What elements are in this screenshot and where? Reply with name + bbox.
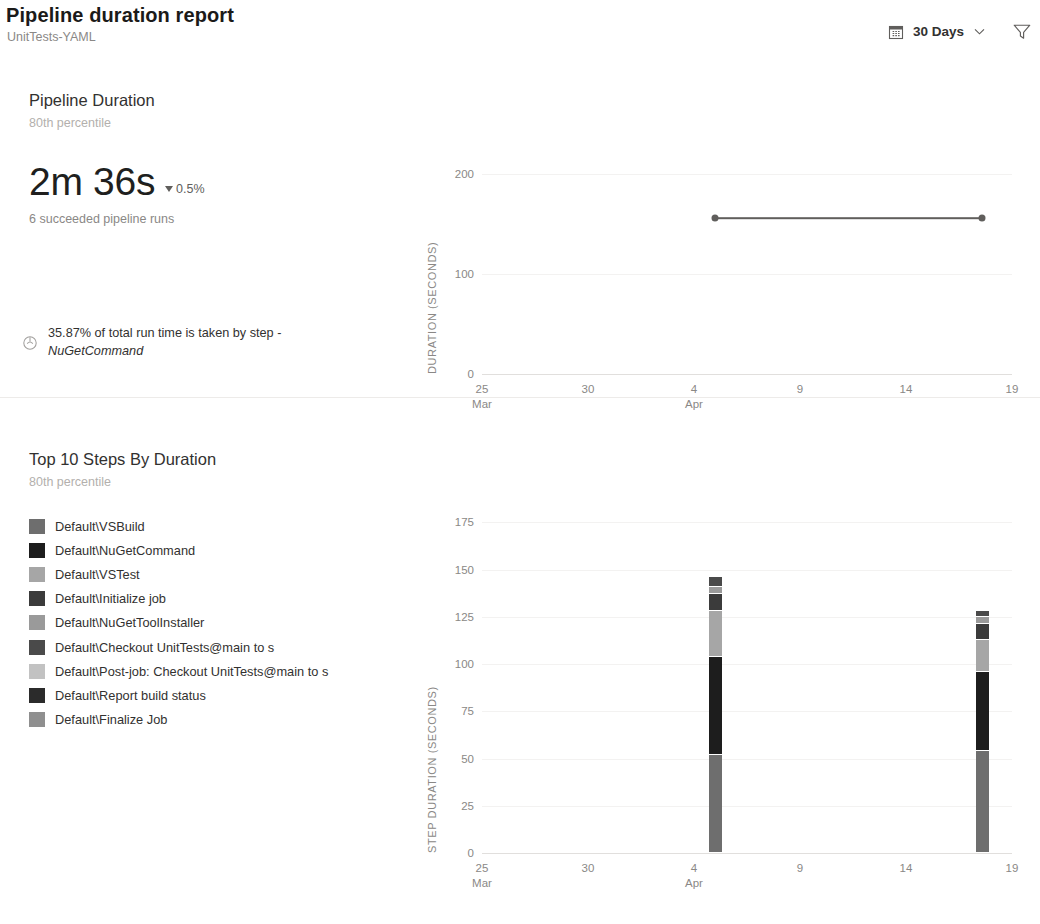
insight-sentence: 35.87% of total run time is taken by ste… [48, 326, 281, 340]
top-steps-title: Top 10 Steps By Duration [29, 450, 429, 469]
insight-text: 35.87% of total run time is taken by ste… [48, 324, 372, 361]
pipeline-duration-section: Pipeline Duration 80th percentile 2m 36s… [0, 62, 1040, 397]
x-axis-tick-label: 19 [982, 383, 1040, 395]
legend-item-label: Default\Report build status [55, 688, 206, 703]
y-axis-tick-label: 100 [436, 268, 474, 280]
kpi-value-row: 2m 36s 0.5% [29, 162, 399, 201]
pipeline-name-subtitle: UnitTests-YAML [7, 30, 96, 44]
bar-segment[interactable] [709, 594, 722, 611]
bar-segment[interactable] [976, 624, 989, 639]
legend-item[interactable]: Default\NuGetCommand [29, 538, 409, 562]
bar-segment[interactable] [709, 657, 722, 755]
pipeline-duration-report-page: Pipeline duration report UnitTests-YAML … [0, 0, 1040, 924]
top-steps-heading: Top 10 Steps By Duration 80th percentile [29, 450, 429, 489]
y-axis-label: STEP DURATION (SECONDS) [426, 686, 438, 853]
x-tick-day: 14 [876, 383, 936, 395]
bar-segment[interactable] [976, 672, 989, 751]
bar-segment[interactable] [976, 751, 989, 853]
pipeline-duration-kpi: Pipeline Duration 80th percentile 2m 36s… [29, 91, 399, 226]
x-tick-day: 9 [770, 862, 830, 874]
legend-color-swatch [29, 519, 45, 534]
x-tick-month: Mar [452, 877, 512, 889]
legend-color-swatch [29, 543, 45, 558]
gridline [482, 274, 1012, 275]
legend-item[interactable]: Default\Post-job: Checkout UnitTests@mai… [29, 659, 409, 683]
legend-item-label: Default\Initialize job [55, 591, 166, 606]
legend-color-swatch [29, 664, 45, 679]
legend-color-swatch [29, 615, 45, 630]
legend-color-swatch [29, 567, 45, 582]
legend-item-label: Default\NuGetCommand [55, 543, 195, 558]
y-axis-tick-label: 75 [436, 705, 474, 717]
bar-segment[interactable] [709, 577, 722, 586]
y-axis-tick-label: 200 [436, 168, 474, 180]
header-actions: 30 Days [888, 22, 1032, 41]
trend-down-icon [165, 186, 173, 192]
page-title: Pipeline duration report [6, 4, 234, 27]
stacked-bar[interactable] [709, 577, 722, 853]
delta-value: 0.5% [176, 182, 205, 196]
x-tick-day: 4 [664, 862, 724, 874]
y-axis-tick-label: 25 [436, 800, 474, 812]
bar-segment[interactable] [709, 755, 722, 853]
x-tick-day: 19 [982, 383, 1040, 395]
gridline [482, 522, 1012, 523]
x-tick-day: 30 [558, 383, 618, 395]
legend-item[interactable]: Default\Finalize Job [29, 708, 409, 732]
legend-item-label: Default\Post-job: Checkout UnitTests@mai… [55, 664, 328, 679]
x-axis-tick-label: 30 [558, 383, 618, 395]
x-axis-tick-label: 4Apr [664, 862, 724, 889]
legend-item[interactable]: Default\VSBuild [29, 514, 409, 538]
lightbulb-insight-icon [22, 325, 38, 361]
x-tick-day: 19 [982, 862, 1040, 874]
y-axis-tick-label: 100 [436, 658, 474, 670]
x-axis-tick-label: 19 [982, 862, 1040, 874]
pipeline-duration-title: Pipeline Duration [29, 91, 399, 110]
y-axis-tick-label: 0 [436, 368, 474, 380]
bar-segment[interactable] [976, 640, 989, 672]
x-axis-tick-label: 30 [558, 862, 618, 874]
date-range-label: 30 Days [913, 24, 964, 39]
line-data-point[interactable] [979, 215, 986, 222]
y-axis-tick-label: 125 [436, 611, 474, 623]
gridline [482, 570, 1012, 571]
x-axis-tick-label: 25Mar [452, 862, 512, 889]
legend-color-swatch [29, 688, 45, 703]
bar-segment[interactable] [709, 587, 722, 595]
legend-item[interactable]: Default\VSTest [29, 562, 409, 586]
calendar-icon [888, 24, 904, 40]
pipeline-duration-value: 2m 36s [29, 162, 155, 201]
pipeline-duration-percentile: 80th percentile [29, 116, 399, 130]
pipeline-duration-delta: 0.5% [165, 182, 205, 196]
legend-item[interactable]: Default\Initialize job [29, 587, 409, 611]
bar-segment[interactable] [976, 617, 989, 625]
date-range-picker[interactable]: 30 Days [888, 24, 986, 40]
filter-icon[interactable] [1012, 22, 1032, 41]
legend-color-swatch [29, 712, 45, 727]
legend-item-label: Default\VSBuild [55, 519, 145, 534]
line-data-point[interactable] [712, 215, 719, 222]
insight-callout: 35.87% of total run time is taken by ste… [22, 324, 372, 361]
step-duration-stacked-bar-chart[interactable]: 0255075100125150175STEP DURATION (SECOND… [410, 503, 1030, 903]
steps-legend: Default\VSBuildDefault\NuGetCommandDefau… [29, 514, 409, 732]
legend-item[interactable]: Default\Report build status [29, 683, 409, 707]
pipeline-duration-line-chart[interactable]: 0100200DURATION (SECONDS)25Mar304Apr9141… [410, 156, 1030, 416]
bar-segment[interactable] [709, 611, 722, 656]
report-header: Pipeline duration report UnitTests-YAML … [0, 0, 1040, 62]
stacked-bar[interactable] [976, 611, 989, 853]
legend-color-swatch [29, 591, 45, 606]
legend-item[interactable]: Default\NuGetToolInstaller [29, 611, 409, 635]
x-tick-day: 30 [558, 862, 618, 874]
x-tick-month: Apr [664, 877, 724, 889]
x-tick-day: 25 [452, 862, 512, 874]
x-tick-day: 9 [770, 383, 830, 395]
gridline [482, 617, 1012, 618]
legend-item-label: Default\VSTest [55, 567, 140, 582]
x-axis-line [482, 374, 1012, 375]
x-tick-day: 14 [876, 862, 936, 874]
legend-item[interactable]: Default\Checkout UnitTests@main to s [29, 635, 409, 659]
gridline [482, 664, 1012, 665]
x-axis-tick-label: 14 [876, 383, 936, 395]
legend-item-label: Default\Finalize Job [55, 712, 167, 727]
chevron-down-icon [973, 25, 986, 38]
